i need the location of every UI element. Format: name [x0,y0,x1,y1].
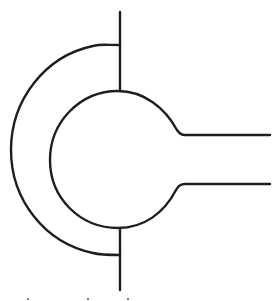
background [0,0,274,301]
diagram-canvas [0,0,274,301]
bottom-mark [87,298,89,300]
bottom-mark [27,298,29,300]
bottom-mark [127,298,129,300]
